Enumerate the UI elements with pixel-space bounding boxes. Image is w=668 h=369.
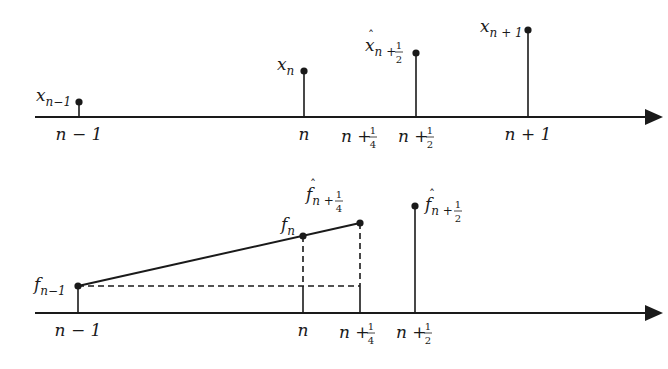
frac-den: 2 bbox=[455, 213, 461, 224]
frac-num: 1 bbox=[368, 321, 374, 332]
label-f-n-1: fn−1 bbox=[32, 274, 66, 298]
label-xhat-n+1/2: xn + bbox=[365, 35, 396, 59]
dot-x-n-1 bbox=[75, 98, 82, 105]
frac-den: 4 bbox=[368, 335, 374, 346]
label-f-n: fn bbox=[279, 214, 295, 238]
dot-x-n+1 bbox=[524, 26, 531, 33]
dot-fhat-n+1/4 bbox=[356, 219, 363, 226]
label-x-n+1: xn + 1 bbox=[480, 16, 523, 40]
dot-f-n bbox=[299, 232, 306, 239]
top-sample-labels: xn−1 xn ˆ xn + 1 2 xn + 1 bbox=[36, 16, 523, 109]
bottom-panel bbox=[35, 202, 663, 321]
frac-num: 1 bbox=[455, 199, 461, 210]
tick-n: n bbox=[298, 320, 309, 340]
bottom-axis-arrow-icon bbox=[645, 305, 663, 321]
label-fhat-n+1/4: fn + bbox=[304, 184, 334, 208]
tick-n+1/4: n + bbox=[341, 126, 372, 146]
bottom-axis-labels: n − 1 n n + 1 4 n + 1 2 bbox=[55, 320, 432, 346]
tick-n+1: n + 1 bbox=[505, 124, 552, 144]
dot-fhat-n+1/2 bbox=[411, 202, 418, 209]
frac-num: 1 bbox=[336, 189, 342, 200]
label-x-n: xn bbox=[277, 54, 294, 78]
frac-den: 2 bbox=[396, 54, 402, 65]
label-fhat-n+1/2: fn + bbox=[423, 194, 453, 218]
dot-x-n bbox=[300, 67, 307, 74]
tick-n-1: n − 1 bbox=[56, 124, 103, 144]
dot-f-n-1 bbox=[74, 282, 81, 289]
tick-n: n bbox=[299, 124, 310, 144]
frac-num: 1 bbox=[427, 125, 433, 136]
bottom-sample-labels: fn−1 fn ˆ fn + 1 4 ˆ fn + 1 2 bbox=[32, 178, 462, 298]
top-axis-arrow-icon bbox=[645, 109, 663, 125]
top-panel bbox=[35, 26, 663, 125]
frac-num: 1 bbox=[370, 125, 376, 136]
interpolation-line bbox=[78, 223, 360, 286]
frac-den: 2 bbox=[427, 139, 433, 150]
top-axis-labels: n − 1 n n + 1 4 n + 1 2 n + 1 bbox=[56, 124, 552, 150]
frac-den: 4 bbox=[336, 203, 342, 214]
dot-xhat-n+1/2 bbox=[412, 49, 419, 56]
tick-n+1/4: n + bbox=[339, 322, 370, 342]
frac-num: 1 bbox=[425, 321, 431, 332]
frac-den: 4 bbox=[370, 139, 376, 150]
tick-n-1: n − 1 bbox=[55, 320, 102, 340]
tick-n+1/2: n + bbox=[398, 126, 429, 146]
frac-den: 2 bbox=[425, 335, 431, 346]
tick-n+1/2: n + bbox=[396, 322, 427, 342]
frac-num: 1 bbox=[396, 40, 402, 51]
label-x-n-1: xn−1 bbox=[36, 85, 71, 109]
interpolation-diagram: xn−1 xn ˆ xn + 1 2 xn + 1 n − 1 n n + 1 … bbox=[0, 0, 668, 369]
